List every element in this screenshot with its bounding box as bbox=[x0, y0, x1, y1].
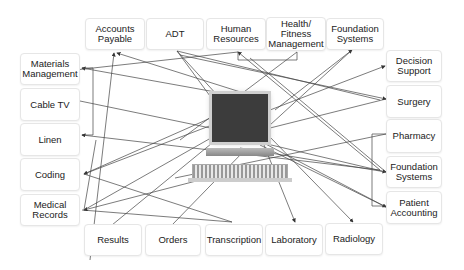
system-medical-records[interactable]: Medical Records bbox=[20, 194, 80, 226]
system-linen[interactable]: Linen bbox=[20, 123, 80, 156]
system-surgery[interactable]: Surgery bbox=[386, 85, 442, 118]
system-label: Patient Accounting bbox=[390, 198, 437, 218]
desktop-computer-icon bbox=[186, 86, 298, 186]
system-transcription[interactable]: Transcription bbox=[205, 224, 263, 256]
integration-diagram: Accounts Payable ADT Human Resources Hea… bbox=[0, 0, 464, 270]
system-label: Linen bbox=[38, 135, 61, 145]
system-label: Results bbox=[97, 235, 129, 245]
system-label: Foundation Systems bbox=[331, 24, 379, 44]
system-label: Coding bbox=[35, 170, 65, 180]
system-adt[interactable]: ADT bbox=[146, 18, 204, 50]
system-label: ADT bbox=[166, 29, 185, 39]
system-cable-tv[interactable]: Cable TV bbox=[20, 88, 80, 121]
system-label: Orders bbox=[158, 235, 187, 245]
system-label: Medical Records bbox=[32, 200, 67, 220]
system-results[interactable]: Results bbox=[84, 224, 142, 256]
system-label: Pharmacy bbox=[393, 131, 436, 141]
system-orders[interactable]: Orders bbox=[145, 224, 201, 256]
system-radiology[interactable]: Radiology bbox=[325, 223, 383, 255]
system-health-fitness-management[interactable]: Health/ Fitness Management bbox=[266, 17, 326, 51]
system-label: Health/ Fitness Management bbox=[268, 19, 323, 49]
system-human-resources[interactable]: Human Resources bbox=[206, 18, 266, 50]
system-label: Radiology bbox=[333, 234, 375, 244]
system-laboratory[interactable]: Laboratory bbox=[265, 224, 323, 256]
system-label: Decision Support bbox=[396, 56, 432, 76]
system-patient-accounting[interactable]: Patient Accounting bbox=[386, 191, 442, 224]
system-materials-management[interactable]: Materials Management bbox=[20, 53, 80, 85]
system-coding[interactable]: Coding bbox=[20, 158, 80, 191]
system-foundation-systems-right[interactable]: Foundation Systems bbox=[386, 156, 442, 188]
system-label: Surgery bbox=[397, 97, 430, 107]
system-foundation-systems-top[interactable]: Foundation Systems bbox=[326, 18, 384, 50]
system-label: Laboratory bbox=[271, 235, 316, 245]
system-label: Human Resources bbox=[213, 24, 258, 44]
system-accounts-payable[interactable]: Accounts Payable bbox=[85, 18, 145, 50]
system-label: Transcription bbox=[207, 235, 262, 245]
system-label: Materials Management bbox=[22, 59, 77, 79]
system-decision-support[interactable]: Decision Support bbox=[386, 50, 442, 82]
system-pharmacy[interactable]: Pharmacy bbox=[386, 119, 442, 153]
system-label: Accounts Payable bbox=[95, 24, 134, 44]
system-label: Cable TV bbox=[30, 100, 69, 110]
system-label: Foundation Systems bbox=[390, 162, 438, 182]
